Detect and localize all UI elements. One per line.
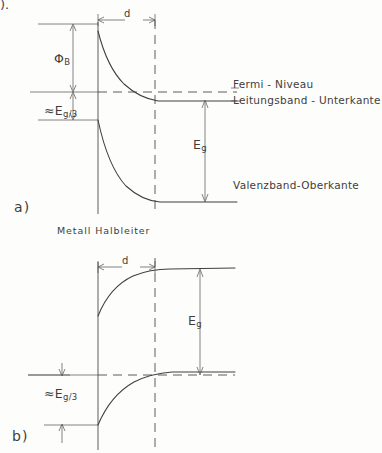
panel-a-phi-symbol: Φ [54,51,64,66]
panel-b-id-label: b) [12,428,29,444]
panel-a-conduction-band-label: Leitungsband - Unterkante [233,94,381,106]
panel-b-width-label: d [122,255,129,266]
panel-b-eg-subscript: g [196,319,202,329]
panel-b-bandgap-label: Eg [188,313,202,329]
panel-a-fermi-label: Fermi - Niveau [233,78,313,90]
panel-a-bandgap-label: Eg [193,137,207,153]
figure-caption-metal-semiconductor: Metall Halbleiter [57,225,150,236]
panel-b-graphics [28,258,235,450]
panel-b-conduction-band-curve [98,268,235,316]
panel-a-eg-third-subscript: g/3 [63,109,78,119]
panel-a-phi-subscript: B [64,57,70,67]
panel-a-eg-third-label: ≈Eg/3 [44,103,78,119]
panel-b-eg-third-main: ≈E [44,386,63,401]
panel-b-valence-band-curve [98,372,235,425]
band-diagram-figure: ). [0,0,382,453]
panel-a-eg-third-main: ≈E [44,103,63,118]
panel-a-width-label: d [124,8,131,19]
panel-a-valence-band-label: Valenzband-Oberkante [233,179,359,191]
panel-a-conduction-band-curve [98,31,237,101]
panel-b-eg-third-subscript: g/3 [63,392,78,402]
panel-b-eg-main: E [188,313,196,328]
panel-a-id-label: a) [14,199,30,215]
panel-a-barrier-height-label: ΦB [54,51,70,67]
panel-b-eg-third-label: ≈Eg/3 [44,386,78,402]
panel-a-eg-subscript: g [201,143,207,153]
panel-a-valence-band-curve [98,120,237,202]
panel-a-eg-main: E [193,137,201,152]
